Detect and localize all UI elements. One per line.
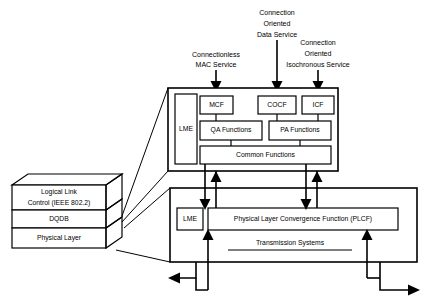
bus-line-right-out (380, 262, 410, 290)
service-labels: Connectionless MAC Service Connection Or… (192, 9, 350, 68)
protocol-stack: Logical Link Control (IEEE 802.2) DQDB P… (12, 174, 122, 248)
stack-llc-line2: Control (IEEE 802.2) (28, 199, 91, 207)
dqdb-layer-box: LME MCF COCF ICF QA Functions PA Functio… (168, 88, 338, 171)
service-co-data-line1: Connection (259, 9, 295, 16)
plcf-label: Physical Layer Convergence Function (PLC… (234, 215, 372, 223)
expansion-guides (116, 88, 170, 262)
arrow-head-up-left (211, 171, 222, 182)
common-functions-label: Common Functions (236, 151, 296, 158)
phy-lme-label: LME (183, 215, 197, 222)
icf-label: ICF (313, 101, 324, 108)
cocf-label: COCF (267, 101, 286, 108)
service-co-iso-line3: Isochronous Service (286, 61, 350, 68)
stack-dqdb-label: DQDB (49, 215, 69, 223)
qa-functions-label: QA Functions (211, 126, 252, 134)
stack-phy-label: Physical Layer (37, 234, 82, 242)
pa-functions-label: PA Functions (280, 126, 320, 133)
dqdb-lme-label: LME (179, 125, 193, 132)
mcf-label: MCF (209, 101, 224, 108)
guide-phy-bottom (116, 250, 170, 262)
arrow-head-right-out (408, 285, 420, 296)
stack-top-face (12, 174, 122, 185)
bus-line-left-out (178, 262, 196, 278)
stack-dqdb-side (106, 199, 122, 228)
dqdb-architecture-diagram: Logical Link Control (IEEE 802.2) DQDB P… (0, 0, 429, 308)
service-co-data-line2: Oriented (264, 20, 291, 27)
service-connectionless-mac-line2: MAC Service (196, 61, 237, 68)
stack-llc-line1: Logical Link (41, 188, 77, 196)
bus-return-left (196, 278, 208, 290)
service-co-iso-line1: Connection (300, 39, 336, 46)
service-co-data-line3: Data Service (257, 31, 297, 38)
arrow-head-left-out (168, 273, 180, 284)
service-co-iso-line2: Oriented (305, 50, 332, 57)
transmission-systems-label: Transmission Systems (256, 239, 325, 247)
arrow-head-up-right (312, 171, 323, 182)
service-connectionless-mac-line1: Connectionless (192, 51, 240, 58)
stack-phy-side (106, 217, 122, 248)
